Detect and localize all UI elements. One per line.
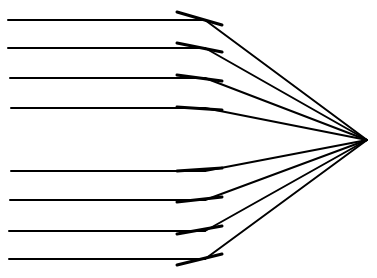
reflected-rays (205, 20, 367, 259)
reflected-ray (205, 48, 367, 140)
reflected-ray (205, 20, 367, 140)
reflected-ray (205, 78, 367, 140)
mirror-facet (177, 107, 222, 110)
mirror-facet (177, 12, 222, 25)
reflected-ray (205, 140, 367, 200)
mirror-facets (177, 12, 222, 265)
diagram-canvas (0, 0, 377, 278)
reflected-ray (205, 140, 367, 231)
incident-rays (8, 20, 205, 259)
ray-diagram (0, 0, 377, 278)
reflected-ray (205, 140, 367, 171)
mirror-facet (177, 168, 222, 171)
reflected-ray (205, 140, 367, 259)
reflected-ray (205, 108, 367, 140)
